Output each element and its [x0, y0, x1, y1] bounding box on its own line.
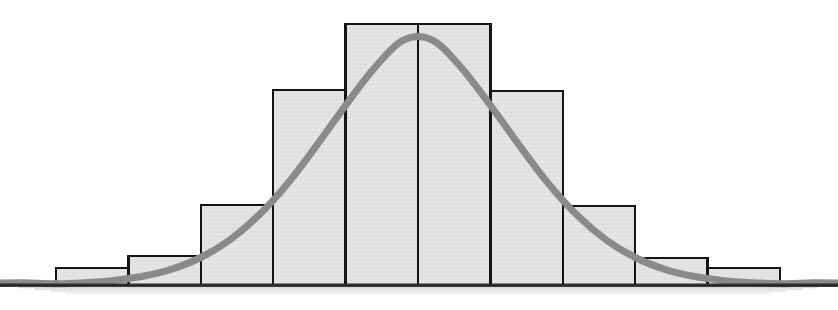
chart-canvas [0, 0, 838, 310]
baseline-shadow [18, 286, 818, 294]
histogram-bars [56, 24, 780, 285]
histogram-bar [563, 206, 635, 285]
histogram-figure [0, 0, 838, 310]
baseline-shadow-band [66, 292, 770, 294]
baseline-axis [0, 284, 838, 287]
baseline-rule [0, 284, 838, 287]
histogram-bar [201, 205, 273, 285]
baseline-shadow-band [50, 290, 786, 292]
baseline-shadow-band [34, 288, 802, 290]
